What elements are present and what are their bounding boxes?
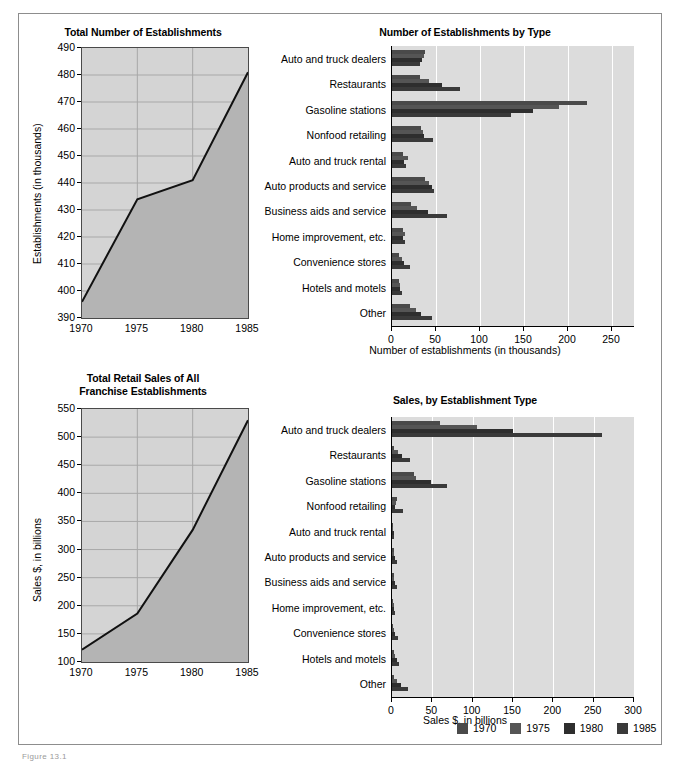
bar — [392, 611, 395, 615]
category-label: Business aids and service — [265, 205, 386, 217]
category-label: Business aids and service — [265, 576, 386, 588]
x-tick-label: 1980 — [180, 323, 203, 334]
bar — [392, 214, 447, 218]
y-tick-label: 400 — [57, 487, 75, 498]
y-tick-label: 300 — [57, 543, 75, 554]
plot-area — [81, 47, 249, 319]
category-label: Hotels and motels — [302, 282, 386, 294]
chart-total-establishments: Total Number of Establishments Establish… — [19, 14, 267, 364]
category-label: Gasoline stations — [305, 104, 386, 116]
chart-title: Number of Establishments by Type — [267, 26, 663, 39]
category-label: Gasoline stations — [305, 475, 386, 487]
x-tick-mark — [611, 327, 612, 331]
bar — [392, 458, 410, 462]
category-label: Nonfood retailing — [307, 500, 386, 512]
category-label: Auto products and service — [265, 180, 386, 192]
y-tick-label: 550 — [57, 403, 75, 414]
grid-line — [553, 417, 554, 697]
grid-line — [473, 417, 474, 697]
category-label: Hotels and motels — [302, 653, 386, 665]
bar — [392, 291, 402, 295]
plot-area — [391, 46, 634, 327]
y-tick-label: 390 — [57, 312, 75, 323]
bar — [392, 240, 405, 244]
legend-label: 1980 — [580, 723, 603, 734]
bar — [392, 62, 420, 66]
bar — [392, 484, 447, 488]
area-fill — [82, 72, 248, 318]
x-tick-mark — [435, 327, 436, 331]
bar — [392, 662, 399, 666]
x-tick-mark — [512, 698, 513, 702]
chart-total-retail-sales: Total Retail Sales of All Franchise Esta… — [19, 364, 267, 726]
chart-title: Sales, by Establishment Type — [267, 394, 663, 407]
category-label: Other — [360, 678, 386, 690]
y-tick-label: 150 — [57, 627, 75, 638]
bar — [392, 535, 394, 539]
y-tick-label: 440 — [57, 177, 75, 188]
x-tick-label: 1970 — [69, 667, 92, 678]
x-tick-label: 1975 — [125, 667, 148, 678]
legend-item: 1980 — [564, 723, 603, 734]
x-tick-mark — [431, 698, 432, 702]
legend-swatch — [617, 723, 628, 734]
bar — [392, 433, 602, 437]
category-label: Auto products and service — [265, 551, 386, 563]
area-fill — [82, 420, 248, 662]
bar — [392, 560, 397, 564]
legend-label: 1985 — [633, 723, 656, 734]
category-label: Auto and truck dealers — [281, 424, 386, 436]
chart-sales-by-type: Sales, by Establishment Type Auto and tr… — [267, 364, 663, 726]
x-tick-label: 1975 — [125, 323, 148, 334]
category-label: Auto and truck rental — [289, 526, 386, 538]
chart-establishments-by-type: Number of Establishments by Type Auto an… — [267, 14, 663, 364]
bar — [392, 164, 406, 168]
y-tick-label: 200 — [57, 599, 75, 610]
legend: 1970197519801985 — [457, 723, 670, 734]
category-label: Convenience stores — [293, 256, 386, 268]
y-tick-label: 480 — [57, 69, 75, 80]
x-tick-label: 1985 — [235, 667, 258, 678]
category-label: Home improvement, etc. — [272, 231, 386, 243]
legend-label: 1975 — [526, 723, 549, 734]
x-tick-mark — [391, 327, 392, 331]
x-axis-title: Number of establishments (in thousands) — [267, 344, 663, 356]
legend-item: 1985 — [617, 723, 656, 734]
y-tick-label: 490 — [57, 42, 75, 53]
x-tick-mark — [633, 698, 634, 702]
category-label: Nonfood retailing — [307, 129, 386, 141]
category-label: Restaurants — [329, 449, 386, 461]
category-label: Auto and truck rental — [289, 155, 386, 167]
y-axis-title: Sales $, in billions — [31, 518, 43, 602]
x-tick-mark — [472, 698, 473, 702]
bar — [392, 113, 511, 117]
category-label: Other — [360, 307, 386, 319]
grid-line — [513, 417, 514, 697]
plot-area — [81, 408, 249, 663]
y-tick-label: 450 — [57, 150, 75, 161]
grid-line — [568, 46, 569, 326]
plot-area — [391, 417, 634, 698]
x-tick-mark — [593, 698, 594, 702]
y-tick-label: 410 — [57, 258, 75, 269]
bar — [392, 509, 403, 513]
legend-swatch — [510, 723, 521, 734]
grid-line — [524, 46, 525, 326]
x-tick-mark — [552, 698, 553, 702]
y-tick-label: 500 — [57, 431, 75, 442]
bar — [392, 636, 398, 640]
grid-line — [594, 417, 595, 697]
legend-swatch — [457, 723, 468, 734]
bar — [392, 687, 408, 691]
x-tick-mark — [391, 698, 392, 702]
grid-line — [612, 46, 613, 326]
chart-title-line1: Total Retail Sales of All — [19, 372, 267, 385]
x-tick-mark — [479, 327, 480, 331]
grid-line — [480, 46, 481, 326]
x-tick-label: 1985 — [235, 323, 258, 334]
figure-frame: Total Number of Establishments Establish… — [18, 13, 662, 745]
grid-line — [634, 417, 635, 697]
x-tick-label: 1970 — [69, 323, 92, 334]
x-tick-label: 1980 — [180, 667, 203, 678]
legend-swatch — [564, 723, 575, 734]
